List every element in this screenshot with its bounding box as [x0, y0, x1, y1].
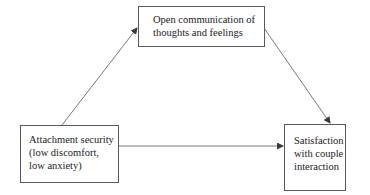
mediation-diagram: Open communication of thoughts and feeli… [0, 0, 370, 195]
arrow-mediator-to-outcome [264, 28, 330, 123]
node-attachment-security: Attachment security (low discomfort, low… [20, 125, 119, 183]
node-satisfaction: Satisfaction with couple interaction [284, 124, 346, 191]
node-label-line: Attachment security [29, 133, 112, 146]
node-label-line: (low discomfort, [29, 146, 112, 159]
node-label-line: with couple [294, 147, 341, 160]
node-open-communication: Open communication of thoughts and feeli… [138, 6, 265, 47]
node-label-line: low anxiety) [29, 159, 112, 172]
node-label-line: Open communication of [153, 13, 256, 26]
arrow-predictor-to-mediator [62, 28, 137, 125]
node-label-line: thoughts and feelings [153, 26, 256, 39]
node-label-line: interaction [294, 160, 341, 173]
node-label-line: Satisfaction [294, 134, 341, 147]
